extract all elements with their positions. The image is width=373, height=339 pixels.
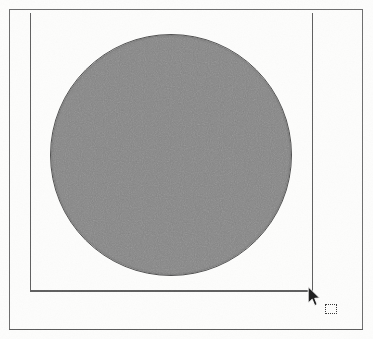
screenshot-root (0, 0, 373, 339)
drawing-frame-left-edge (30, 13, 31, 291)
drawing-frame-bottom-edge (30, 290, 313, 291)
mouse-pointer-icon (307, 286, 321, 307)
drawing-frame-right-edge (312, 13, 313, 291)
filled-circle[interactable] (51, 35, 291, 275)
circle-noise-texture (51, 35, 291, 275)
selection-marquee (325, 304, 337, 314)
